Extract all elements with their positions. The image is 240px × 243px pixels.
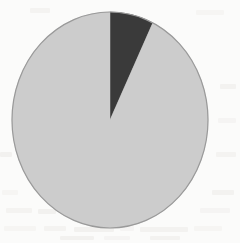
scanned-page xyxy=(0,0,240,243)
pie-chart-svg xyxy=(0,0,240,243)
pie-slice-light-slice[interactable] xyxy=(12,12,208,228)
pie-chart-figure xyxy=(0,0,240,243)
pie-slice-group xyxy=(12,12,208,228)
